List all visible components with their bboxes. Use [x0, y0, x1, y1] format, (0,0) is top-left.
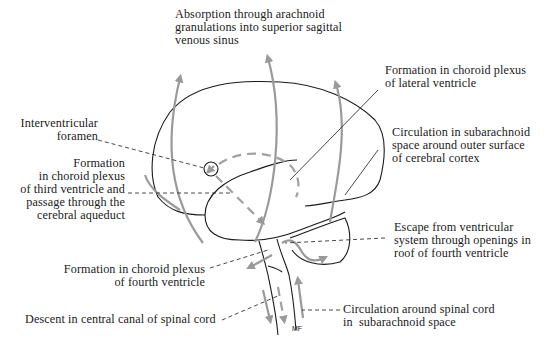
temporal-lobe-outline	[158, 197, 345, 240]
brainstem-outline-right	[277, 239, 296, 330]
third-ventricle-dashed	[216, 176, 262, 222]
artist-signature: MF	[292, 325, 302, 332]
cerebrum-outline	[152, 81, 384, 206]
leader-lateral-ventricle	[290, 90, 378, 180]
label-central-canal: Descent in central canal of spinal cord	[25, 313, 216, 326]
label-fourth-ventricle: Formation in choroid plexus of fourth ve…	[64, 263, 205, 289]
leader-fourth-ventricle	[210, 250, 268, 268]
fourth-ventricle-escape-arrow-left	[250, 255, 272, 267]
label-lateral-ventricle: Formation in choroid plexus of lateral v…	[385, 64, 526, 90]
label-interventricular-foramen: Interventricular foramen	[21, 117, 98, 143]
foramen-arrow	[209, 166, 214, 171]
label-escape: Escape from ventricular system through o…	[394, 221, 531, 260]
label-subarachnoid-cortex: Circulation in subarachnoid space around…	[392, 126, 530, 165]
csf-circulation-diagram: MF Absorption through arachnoid granulat…	[0, 0, 550, 345]
central-canal-dashed-arrow	[278, 287, 284, 320]
flow-arrow-middle	[255, 58, 277, 242]
brainstem-outline	[259, 241, 278, 335]
leader-central-canal	[222, 295, 280, 320]
leader-escape	[285, 238, 385, 243]
fourth-ventricle-escape-arrow-right	[282, 240, 324, 260]
label-third-ventricle: Formation in choroid plexus of third ven…	[20, 157, 125, 222]
spinal-ascent-arrow-right	[298, 280, 303, 318]
spinal-descent-arrow-left	[263, 290, 270, 320]
leader-subarachnoid	[345, 150, 378, 195]
label-absorption: Absorption through arachnoid granulation…	[175, 8, 342, 47]
spinal-cord-centerline	[268, 266, 282, 272]
label-spinal-circulation: Circulation around spinal cord in subara…	[343, 303, 495, 329]
temporal-inner-outline	[205, 160, 297, 215]
